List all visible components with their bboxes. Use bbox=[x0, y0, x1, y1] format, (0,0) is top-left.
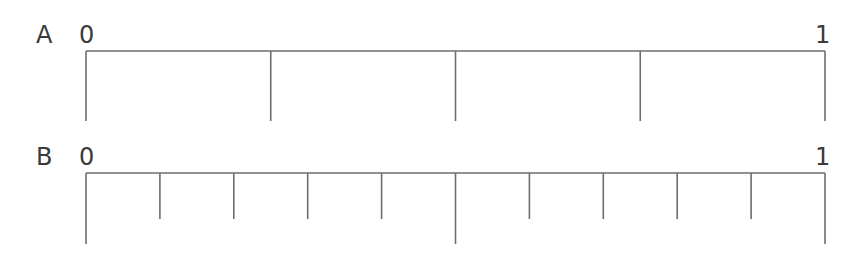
line-a-ticks bbox=[86, 51, 825, 121]
line-b-ticks bbox=[86, 173, 825, 244]
line-a-start-label: 0 bbox=[79, 21, 94, 49]
number-line-a: A 0 1 bbox=[36, 21, 830, 121]
line-b-end-label: 1 bbox=[815, 143, 830, 171]
line-a-label: A bbox=[36, 21, 53, 49]
number-line-b: B 0 1 bbox=[36, 143, 830, 244]
number-line-diagram: A 0 1 B 0 1 bbox=[0, 0, 849, 255]
line-b-label: B bbox=[36, 143, 52, 171]
line-a-end-label: 1 bbox=[815, 21, 830, 49]
line-b-start-label: 0 bbox=[79, 143, 94, 171]
